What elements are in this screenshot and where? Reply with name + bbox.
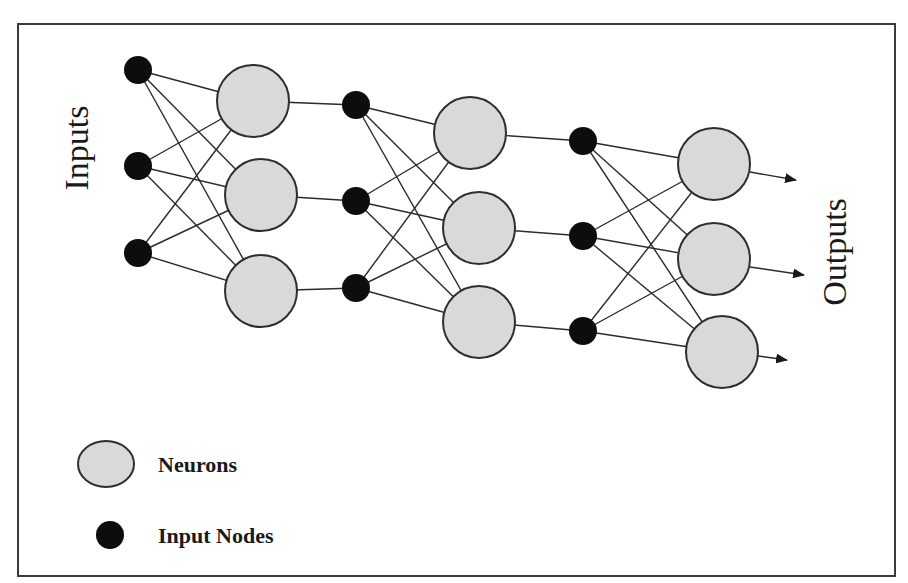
input-node — [124, 152, 152, 180]
legend-neuron-icon — [78, 441, 134, 487]
input-node — [342, 187, 370, 215]
input-node — [342, 91, 370, 119]
input-node — [569, 222, 597, 250]
neuron — [686, 316, 758, 388]
neuron — [217, 65, 289, 137]
neuron — [678, 223, 750, 295]
neuron — [434, 97, 506, 169]
diagram-canvas: Inputs Outputs Neurons Input Nodes — [0, 0, 908, 583]
inputs-label: Inputs — [58, 106, 95, 191]
legend-input-node-icon — [96, 521, 124, 549]
legend-input-nodes-label: Input Nodes — [158, 523, 274, 548]
neuron — [443, 192, 515, 264]
neuron — [678, 128, 750, 200]
input-node — [124, 239, 152, 267]
input-node — [569, 317, 597, 345]
neuron — [225, 255, 297, 327]
input-node — [124, 56, 152, 84]
neuron — [443, 286, 515, 358]
legend-neurons-label: Neurons — [158, 452, 237, 477]
neural-network-diagram: Inputs Outputs Neurons Input Nodes — [0, 0, 908, 583]
outputs-label: Outputs — [816, 198, 853, 306]
input-node — [569, 127, 597, 155]
neuron — [225, 159, 297, 231]
input-node — [342, 274, 370, 302]
